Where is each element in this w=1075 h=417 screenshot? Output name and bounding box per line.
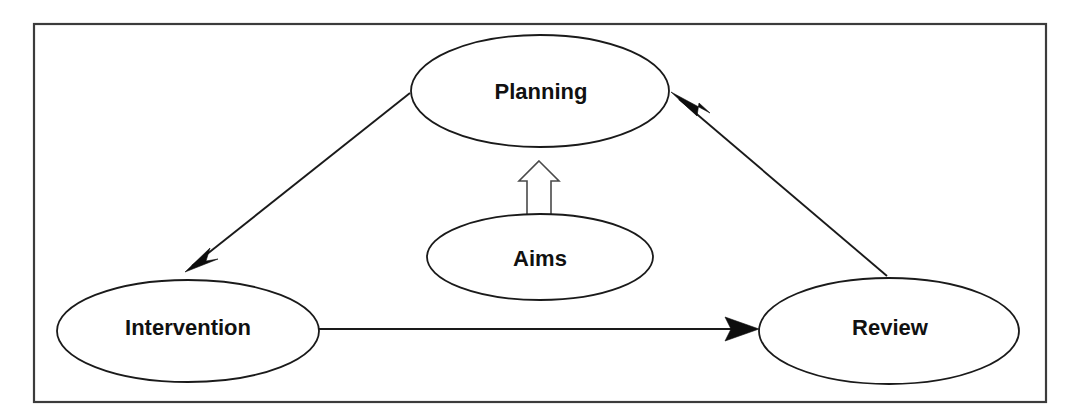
connector-line <box>679 99 887 276</box>
connector-review-to-planning <box>671 92 887 276</box>
node-aims[interactable]: Aims <box>427 214 653 300</box>
node-review-label: Review <box>852 315 929 340</box>
arrowhead-filled-icon <box>185 248 218 272</box>
diagram-canvas: Planning Aims Intervention Review <box>0 0 1075 417</box>
node-aims-label: Aims <box>513 246 567 271</box>
node-intervention-label: Intervention <box>125 315 251 340</box>
connector-intervention-to-review <box>319 317 759 341</box>
node-intervention[interactable]: Intervention <box>57 280 319 382</box>
diagram-svg: Planning Aims Intervention Review <box>0 0 1075 417</box>
connector-planning-to-intervention <box>185 93 410 272</box>
arrowhead-filled-icon <box>671 92 710 116</box>
connector-line <box>192 93 410 266</box>
node-planning-label: Planning <box>495 79 588 104</box>
connector-aims-to-planning <box>519 161 559 217</box>
node-planning[interactable]: Planning <box>411 35 669 147</box>
node-review[interactable]: Review <box>759 278 1019 384</box>
hollow-block-arrow-icon <box>519 161 559 217</box>
